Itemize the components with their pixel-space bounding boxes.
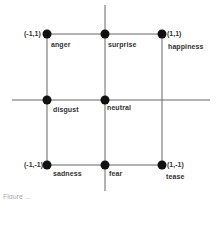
label-happiness: happiness xyxy=(168,43,204,51)
coord-bottom-left: (-1,-1) xyxy=(24,161,43,169)
coord-top-right: (1,1) xyxy=(167,30,181,38)
node-surprise-dot xyxy=(101,30,110,39)
node-tease-dot xyxy=(158,161,167,170)
node-disgust-dot xyxy=(43,96,52,105)
coord-top-left: (-1,1) xyxy=(24,30,41,38)
node-fear-dot xyxy=(101,161,110,170)
node-sadness-dot xyxy=(43,161,52,170)
node-happiness-dot xyxy=(158,30,167,39)
label-disgust: disgust xyxy=(53,106,79,114)
label-sadness: sadness xyxy=(53,170,82,178)
label-anger: anger xyxy=(51,41,71,49)
label-neutral: neutral xyxy=(107,104,131,112)
node-anger-dot xyxy=(43,30,52,39)
figure-caption: Figure ... xyxy=(3,193,31,199)
label-fear: fear xyxy=(109,170,122,178)
label-surprise: surprise xyxy=(108,41,136,49)
label-tease: tease xyxy=(166,173,184,181)
coord-bottom-right: (1,-1) xyxy=(167,161,184,169)
